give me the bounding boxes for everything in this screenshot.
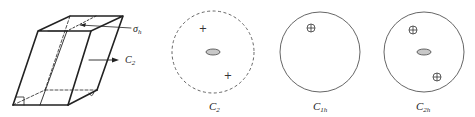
projection-c1h: C1h <box>280 12 360 114</box>
projection-c2: + + C2 <box>172 11 254 114</box>
mirror-pointer <box>80 25 131 28</box>
two-fold-axis-ellipse <box>417 49 431 55</box>
axis-label: C2 <box>125 54 136 67</box>
mirror-label: σh <box>133 23 142 36</box>
projection-label: C2h <box>416 100 431 114</box>
projection-label: C2 <box>209 100 220 114</box>
plus-symbol: + <box>224 70 232 81</box>
right-angle-mark <box>16 97 24 105</box>
monoclinic-prism <box>13 16 131 105</box>
solid-circle <box>280 12 360 92</box>
projection-label: C1h <box>313 100 328 114</box>
prism-top-face <box>38 16 123 31</box>
mirror-plane <box>40 16 96 105</box>
hidden-edges <box>13 16 97 105</box>
plus-symbol: + <box>199 23 207 34</box>
two-fold-axis-ellipse <box>206 49 220 55</box>
diagram-canvas: σh C2 + + C2 C1h C2h <box>0 0 475 117</box>
projection-c2h: C2h <box>384 12 464 114</box>
